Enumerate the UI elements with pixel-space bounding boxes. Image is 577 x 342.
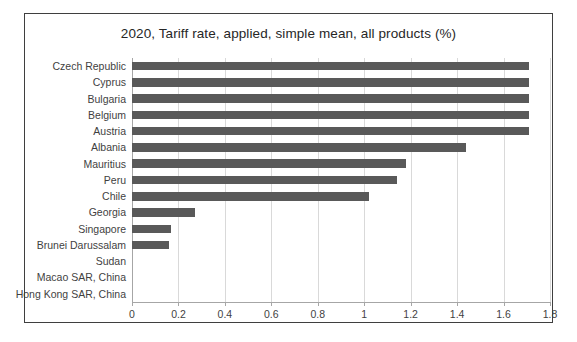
category-label: Sudan (96, 253, 132, 269)
bar (132, 62, 529, 71)
x-tick-label: 0.4 (218, 308, 233, 320)
x-tick-label: 1 (361, 308, 367, 320)
category-label: Brunei Darussalam (37, 237, 132, 253)
x-tick (132, 302, 133, 306)
category-label: Hong Kong SAR, China (16, 286, 132, 302)
bar-rows: Czech RepublicCyprusBulgariaBelgiumAustr… (132, 58, 550, 302)
bar (132, 208, 195, 217)
bar (132, 143, 466, 152)
category-label: Belgium (88, 107, 132, 123)
bar (132, 78, 529, 87)
category-label: Cyprus (93, 74, 132, 90)
x-tick-label: 0.6 (264, 308, 279, 320)
x-tick (318, 302, 319, 306)
gridline-1.8 (550, 58, 551, 302)
x-tick (271, 302, 272, 306)
bar (132, 241, 169, 250)
x-tick-label: 0 (129, 308, 135, 320)
x-tick (550, 302, 551, 306)
category-label: Bulgaria (87, 91, 132, 107)
bar (132, 176, 397, 185)
bar-row: Albania (132, 139, 550, 155)
x-tick-label: 0.8 (310, 308, 325, 320)
bar-row: Georgia (132, 204, 550, 220)
bar (132, 225, 171, 234)
bar (132, 111, 529, 120)
bar-row: Brunei Darussalam (132, 237, 550, 253)
x-tick (504, 302, 505, 306)
bar-row: Belgium (132, 107, 550, 123)
plot-area: Czech RepublicCyprusBulgariaBelgiumAustr… (132, 58, 550, 302)
bar-row: Peru (132, 172, 550, 188)
x-tick (364, 302, 365, 306)
bar (132, 94, 529, 103)
x-tick (411, 302, 412, 306)
x-tick (225, 302, 226, 306)
category-label: Macao SAR, China (37, 269, 132, 285)
category-label: Singapore (78, 221, 132, 237)
chart-container: 2020, Tariff rate, applied, simple mean,… (24, 13, 553, 323)
x-tick (178, 302, 179, 306)
bar (132, 192, 369, 201)
x-tick-label: 1.4 (450, 308, 465, 320)
category-label: Chile (102, 188, 132, 204)
category-label: Peru (104, 172, 132, 188)
x-tick-label: 1.2 (403, 308, 418, 320)
bar-row: Mauritius (132, 156, 550, 172)
bar-row: Sudan (132, 253, 550, 269)
bar-row: Chile (132, 188, 550, 204)
x-tick-label: 1.6 (496, 308, 511, 320)
category-label: Mauritius (83, 156, 132, 172)
bar-row: Bulgaria (132, 91, 550, 107)
bar-row: Austria (132, 123, 550, 139)
bar-row: Cyprus (132, 74, 550, 90)
bar-row: Czech Republic (132, 58, 550, 74)
x-tick (457, 302, 458, 306)
category-label: Austria (93, 123, 132, 139)
bar-row: Singapore (132, 221, 550, 237)
category-label: Georgia (89, 204, 132, 220)
category-label: Czech Republic (52, 58, 132, 74)
bar (132, 127, 529, 136)
x-tick-label: 1.8 (543, 308, 558, 320)
bar-row: Hong Kong SAR, China (132, 286, 550, 302)
x-axis-line (132, 302, 550, 303)
bar (132, 159, 406, 168)
bar-row: Macao SAR, China (132, 269, 550, 285)
x-tick-label: 0.2 (171, 308, 186, 320)
chart-title: 2020, Tariff rate, applied, simple mean,… (25, 26, 552, 41)
category-label: Albania (91, 139, 132, 155)
